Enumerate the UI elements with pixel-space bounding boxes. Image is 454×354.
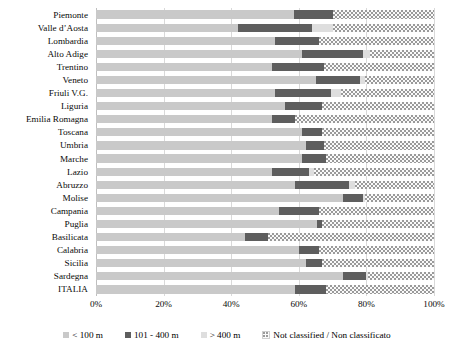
y-axis-label: Trentino <box>57 62 88 72</box>
y-axis-label: Toscana <box>58 127 88 137</box>
bar-segment <box>96 207 279 215</box>
bar-segment <box>275 37 319 45</box>
y-axis-label: Piemonte <box>53 10 88 20</box>
y-axis-label: Umbria <box>60 140 88 150</box>
bar-row <box>96 272 434 280</box>
bar-segment <box>302 50 363 58</box>
bar-segment <box>294 10 332 18</box>
bar-segment <box>96 76 316 84</box>
plot-area <box>96 8 434 296</box>
y-axis-label: Sardegna <box>54 271 88 281</box>
bar-segment <box>295 285 325 293</box>
y-axis-label: Abruzzo <box>56 180 88 190</box>
bar-segment <box>96 128 302 136</box>
legend-label: Not classified / Non classificato <box>273 330 390 340</box>
legend-swatch-icon <box>63 332 69 338</box>
bar-row <box>96 10 434 18</box>
y-axis-label: ITALIA <box>58 284 88 294</box>
bar-row <box>96 154 434 162</box>
bar-row <box>96 207 434 215</box>
bar-segment <box>333 10 434 18</box>
x-axis-tick-label: 20% <box>155 299 172 309</box>
bar-segment <box>319 207 434 215</box>
x-axis-tick-label: 0% <box>90 299 102 309</box>
legend-label: > 400 m <box>210 330 241 340</box>
bar-segment <box>312 24 332 32</box>
bar-segment <box>322 128 434 136</box>
x-axis-tick-label: 60% <box>290 299 307 309</box>
bar-segment <box>324 63 434 71</box>
bar-segment <box>363 50 370 58</box>
bar-segment <box>322 220 434 228</box>
bar-segment <box>365 76 434 84</box>
legend-swatch-icon <box>125 332 131 338</box>
y-axis-label: Veneto <box>62 75 88 85</box>
bar-segment <box>343 272 367 280</box>
bar-segment <box>279 207 320 215</box>
bar-segment <box>326 285 434 293</box>
bar-row <box>96 233 434 241</box>
y-axis-label: Campania <box>51 206 88 216</box>
bar-segment <box>96 141 306 149</box>
y-axis-label: Puglia <box>65 219 88 229</box>
bar-segment <box>272 168 309 176</box>
bar-segment <box>96 168 272 176</box>
bar-segment <box>306 141 325 149</box>
bar-segment <box>96 50 302 58</box>
y-axis-label: Marche <box>60 154 88 164</box>
bar-segment <box>272 115 296 123</box>
bar-row <box>96 285 434 293</box>
bar-segment <box>302 154 326 162</box>
bar-segment <box>295 115 434 123</box>
bar-segment <box>96 233 245 241</box>
bar-segment <box>96 115 272 123</box>
bar-segment <box>306 259 323 267</box>
gridline-100pct <box>434 8 435 296</box>
chart-legend: < 100 m101 - 400 m> 400 mNot classified … <box>0 330 454 340</box>
x-axis-tick-label: 80% <box>358 299 375 309</box>
y-axis-label: Basilicata <box>52 232 88 242</box>
bar-row <box>96 89 434 97</box>
y-axis-label: Emilia Romagna <box>26 114 88 124</box>
bar-rows <box>96 8 434 296</box>
stacked-bar-chart: PiemonteValle d’AostaLombardiaAlto Adige… <box>0 0 454 354</box>
legend-swatch-icon <box>201 332 207 338</box>
bar-segment <box>96 259 306 267</box>
bar-segment <box>96 194 343 202</box>
y-axis-label: Sicilia <box>65 258 88 268</box>
bar-segment <box>238 24 312 32</box>
bar-segment <box>96 181 295 189</box>
bar-segment <box>96 10 294 18</box>
bar-segment <box>96 272 343 280</box>
bar-segment <box>355 181 434 189</box>
bar-segment <box>370 50 434 58</box>
bar-row <box>96 128 434 136</box>
bar-segment <box>368 272 434 280</box>
x-axis-tick-label: 100% <box>423 299 444 309</box>
bar-row <box>96 181 434 189</box>
bar-segment <box>96 63 272 71</box>
y-axis-label: Valle d’Aosta <box>38 23 88 33</box>
bar-row <box>96 115 434 123</box>
bar-segment <box>324 141 434 149</box>
bar-row <box>96 259 434 267</box>
bar-row <box>96 63 434 71</box>
legend-item: > 400 m <box>201 330 241 340</box>
x-axis-tick-label: 40% <box>223 299 240 309</box>
bar-segment <box>96 246 299 254</box>
bar-row <box>96 194 434 202</box>
bar-segment <box>316 76 360 84</box>
bar-row <box>96 37 434 45</box>
legend-item: Not classified / Non classificato <box>262 330 390 340</box>
y-axis-label: Molise <box>62 193 88 203</box>
y-axis-label: Lazio <box>67 167 88 177</box>
y-axis-label: Lombardia <box>48 36 88 46</box>
bar-segment <box>365 194 434 202</box>
bar-segment <box>331 89 341 97</box>
bar-segment <box>302 128 322 136</box>
bar-segment <box>96 285 295 293</box>
bar-row <box>96 102 434 110</box>
bar-segment <box>96 24 238 32</box>
legend-label: < 100 m <box>72 330 103 340</box>
y-axis-category-labels: PiemonteValle d’AostaLombardiaAlto Adige… <box>0 8 92 296</box>
